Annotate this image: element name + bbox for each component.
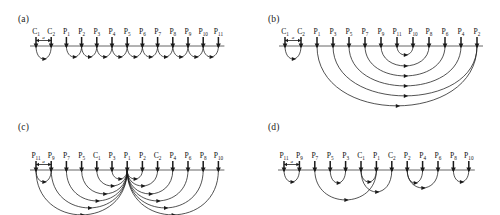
arc-arrowhead bbox=[337, 181, 341, 185]
node-label: P5 bbox=[327, 151, 334, 161]
node-label: P8 bbox=[450, 151, 457, 161]
arc bbox=[407, 170, 422, 183]
node-label: P9 bbox=[296, 151, 303, 161]
node-label: P10 bbox=[464, 151, 474, 161]
node-label: P2 bbox=[404, 151, 411, 161]
arc-arrowhead bbox=[421, 186, 425, 190]
node-label: C2 bbox=[388, 151, 396, 161]
arc bbox=[330, 170, 345, 183]
spacing-label: a bbox=[290, 159, 293, 164]
arc-arrowhead bbox=[375, 190, 379, 194]
arc-arrowhead bbox=[368, 180, 372, 184]
node-label: P4 bbox=[419, 151, 426, 161]
arc-arrowhead bbox=[414, 181, 418, 185]
node-label: P6 bbox=[435, 151, 442, 161]
node-label: P1 bbox=[373, 151, 380, 161]
arc bbox=[361, 170, 376, 182]
arc bbox=[315, 170, 377, 200]
arc bbox=[284, 170, 299, 182]
arc-arrowhead bbox=[460, 180, 464, 184]
arc-arrowhead bbox=[344, 198, 348, 202]
arc-diagram-figure: (a)C1C2P1P2P3P4P5P6P7P8P9P10P11a(b)C1C2P… bbox=[0, 0, 500, 215]
arc-arrowhead bbox=[291, 180, 295, 184]
node-label: C1 bbox=[357, 151, 365, 161]
node-label: P3 bbox=[342, 151, 349, 161]
arc bbox=[453, 170, 468, 182]
node-label: P7 bbox=[311, 151, 318, 161]
node-label: P11 bbox=[279, 151, 289, 161]
